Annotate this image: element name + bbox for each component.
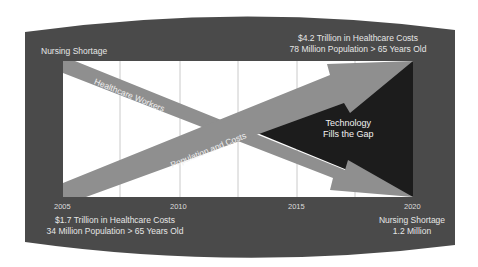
gap-line2: Fills the Gap [323,129,374,140]
year-2010: 2010 [170,202,187,211]
year-2015: 2015 [288,202,305,211]
bottom-left-annotation: $1.7 Trillion in Healthcare Costs 34 Mil… [40,215,190,237]
top-right-line1: $4.2 Trillion in Healthcare Costs [288,33,428,44]
gap-line1: Technology [323,118,374,129]
bottom-right-line2: 1.2 Million [362,226,462,237]
top-right-line2: 78 Million Population > 65 Years Old [288,44,428,55]
technology-gap-label: Technology Fills the Gap [323,118,374,140]
bottom-right-annotation: Nursing Shortage 1.2 Million [362,215,462,237]
year-2005: 2005 [54,202,71,211]
bottom-left-line1: $1.7 Trillion in Healthcare Costs [40,215,190,226]
nursing-shortage-title: Nursing Shortage [41,46,107,57]
year-2020: 2020 [404,202,421,211]
top-right-annotation: $4.2 Trillion in Healthcare Costs 78 Mil… [288,33,428,55]
bottom-left-line2: 34 Million Population > 65 Years Old [40,226,190,237]
bottom-right-line1: Nursing Shortage [362,215,462,226]
